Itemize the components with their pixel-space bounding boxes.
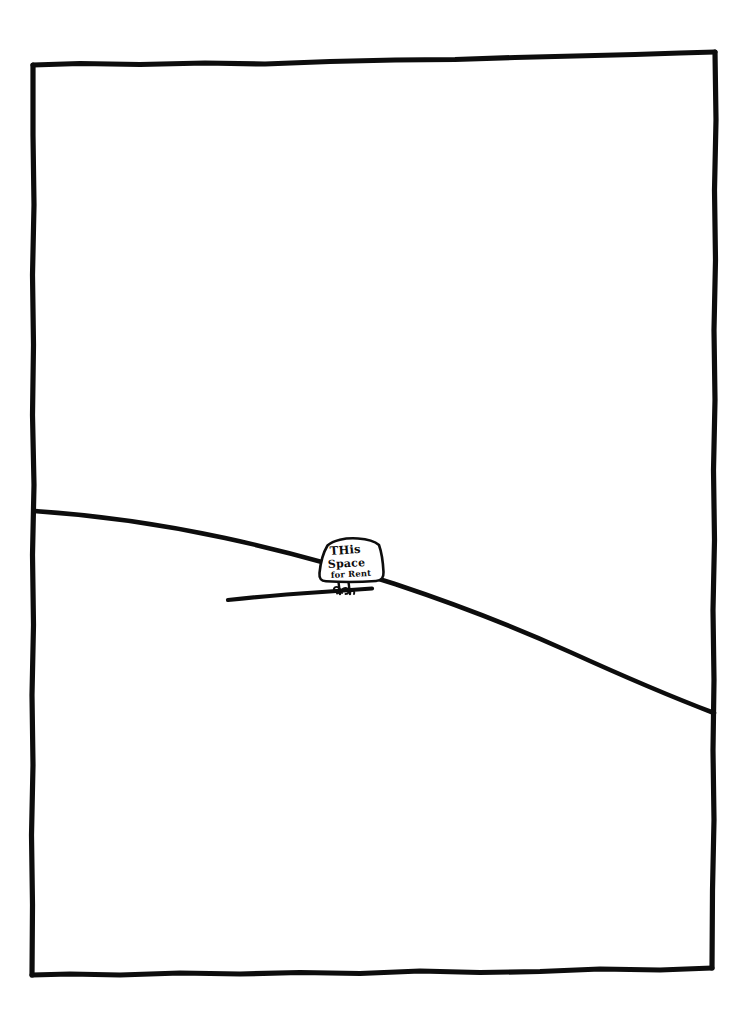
drawing-canvas: THis Space for Rent This Space For Rent … (0, 0, 755, 1014)
frame-right-edge (712, 52, 716, 968)
frame-left-edge (32, 65, 35, 975)
border-frame (32, 52, 717, 975)
line-drawing-scene: THis Space for Rent (0, 0, 755, 1014)
frame-top-edge (33, 52, 715, 65)
signboard-group[interactable]: THis Space for Rent (319, 538, 383, 594)
sign-text-line-3: for Rent (331, 568, 372, 580)
frame-bottom-edge (32, 968, 712, 975)
